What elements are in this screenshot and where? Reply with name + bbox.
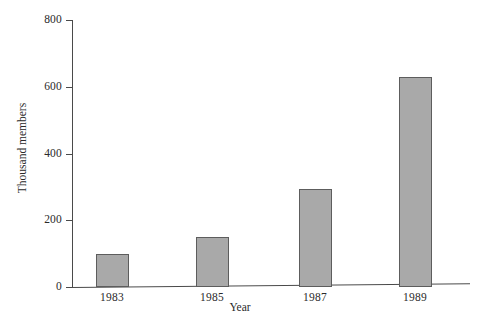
- y-axis-tick-mark: [66, 287, 73, 288]
- x-axis-title: Year: [0, 301, 480, 313]
- y-axis-tick: 0: [0, 287, 480, 288]
- y-axis-title: Thousand members: [16, 88, 28, 208]
- bar-chart: 0200400600800 Thousand members 198319851…: [0, 0, 480, 320]
- y-axis-tick-label: 200: [22, 214, 62, 226]
- bar: [299, 189, 332, 287]
- plot-area: [72, 20, 470, 287]
- y-axis-tick-label: 400: [22, 148, 62, 160]
- y-axis-tick-label: 0: [22, 281, 62, 293]
- bar: [96, 254, 129, 287]
- y-axis-tick-label: 600: [22, 81, 62, 93]
- bar: [399, 77, 432, 287]
- y-axis-tick-label: 800: [22, 14, 62, 26]
- bar: [196, 237, 229, 287]
